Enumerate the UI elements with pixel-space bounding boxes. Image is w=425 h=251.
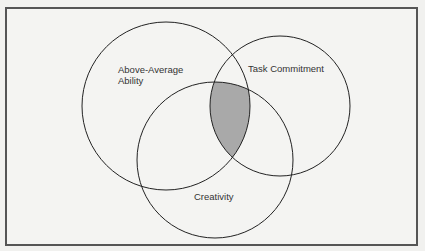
label-ability: Above-Average Ability <box>118 64 183 86</box>
triple-intersection <box>137 82 293 238</box>
venn-diagram <box>0 0 425 251</box>
label-ability-line2: Ability <box>118 75 183 86</box>
label-creativity: Creativity <box>194 191 234 202</box>
label-task-commitment: Task Commitment <box>248 63 324 74</box>
label-ability-line1: Above-Average <box>118 64 183 75</box>
